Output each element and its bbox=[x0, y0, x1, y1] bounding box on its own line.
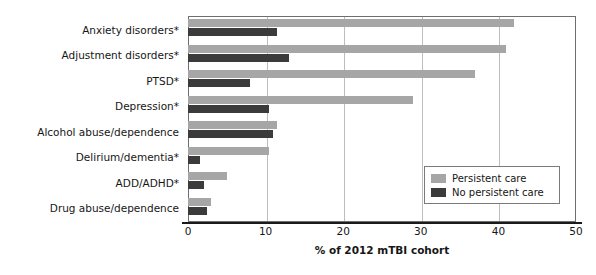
x-tick-label-10: 10 bbox=[259, 225, 272, 237]
x-tick-label-0: 0 bbox=[185, 225, 192, 237]
category-label-anxiety-disorders: Anxiety disorders* bbox=[0, 17, 184, 43]
legend-item-persistent-care: Persistent care bbox=[431, 171, 553, 185]
category-label-add-adhd: ADD/ADHD* bbox=[0, 170, 184, 196]
bar-row-alcohol-abuse-dependence bbox=[188, 119, 576, 145]
category-label-depression: Depression* bbox=[0, 94, 184, 120]
legend: Persistent care No persistent care bbox=[424, 166, 560, 204]
bar-drug-abuse-dependence-no-persistent-care bbox=[188, 207, 207, 215]
x-axis-tick-labels: 01020304050 bbox=[188, 225, 576, 241]
category-label-adjustment-disorders: Adjustment disorders* bbox=[0, 43, 184, 69]
bar-depression-no-persistent-care bbox=[188, 105, 269, 113]
bar-row-anxiety-disorders bbox=[188, 17, 576, 43]
x-axis-title: % of 2012 mTBI cohort bbox=[188, 244, 576, 256]
bar-adjustment-disorders-persistent-care bbox=[188, 45, 506, 53]
category-label-ptsd: PTSD* bbox=[0, 68, 184, 94]
x-tick-label-40: 40 bbox=[492, 225, 505, 237]
legend-label-persistent-care: Persistent care bbox=[452, 173, 526, 184]
category-label-delirium-dementia: Delirium/dementia* bbox=[0, 145, 184, 171]
bar-delirium-dementia-no-persistent-care bbox=[188, 156, 200, 164]
bar-ptsd-persistent-care bbox=[188, 70, 475, 78]
bar-alcohol-abuse-dependence-persistent-care bbox=[188, 121, 277, 129]
bar-delirium-dementia-persistent-care bbox=[188, 147, 269, 155]
x-tick-label-20: 20 bbox=[337, 225, 350, 237]
x-tick-label-30: 30 bbox=[414, 225, 427, 237]
legend-item-no-persistent-care: No persistent care bbox=[431, 185, 553, 199]
bar-drug-abuse-dependence-persistent-care bbox=[188, 198, 211, 206]
bar-ptsd-no-persistent-care bbox=[188, 79, 250, 87]
bar-row-ptsd bbox=[188, 68, 576, 94]
bar-add-adhd-persistent-care bbox=[188, 172, 227, 180]
bar-anxiety-disorders-persistent-care bbox=[188, 19, 514, 27]
bar-chart: Anxiety disorders* Adjustment disorders*… bbox=[0, 0, 596, 275]
bar-row-adjustment-disorders bbox=[188, 43, 576, 69]
x-axis-line bbox=[182, 222, 582, 224]
legend-swatch-persistent-care-icon bbox=[431, 174, 446, 183]
legend-label-no-persistent-care: No persistent care bbox=[452, 187, 544, 198]
category-label-alcohol-abuse: Alcohol abuse/dependence bbox=[0, 119, 184, 145]
x-tick-label-50: 50 bbox=[569, 225, 582, 237]
bar-anxiety-disorders-no-persistent-care bbox=[188, 28, 277, 36]
bar-alcohol-abuse-dependence-no-persistent-care bbox=[188, 130, 273, 138]
legend-swatch-no-persistent-care-icon bbox=[431, 188, 446, 197]
bar-adjustment-disorders-no-persistent-care bbox=[188, 54, 289, 62]
bar-row-depression bbox=[188, 94, 576, 120]
bar-depression-persistent-care bbox=[188, 96, 413, 104]
category-label-drug-abuse: Drug abuse/dependence bbox=[0, 196, 184, 222]
category-axis-labels: Anxiety disorders* Adjustment disorders*… bbox=[0, 17, 184, 221]
bar-add-adhd-no-persistent-care bbox=[188, 181, 204, 189]
